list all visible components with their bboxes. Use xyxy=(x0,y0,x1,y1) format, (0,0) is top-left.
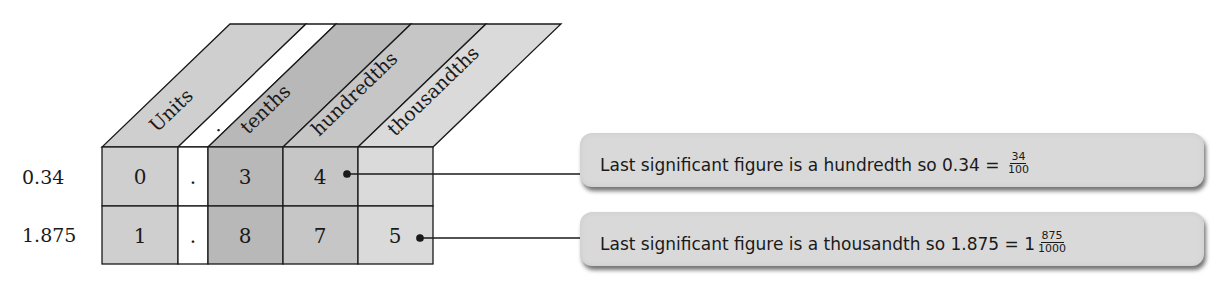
digit-r2-thousandths: 5 xyxy=(389,224,402,248)
callout-thousandth-whole: 1 xyxy=(1024,233,1035,253)
digit-r1-hundredths: 4 xyxy=(314,165,327,189)
value-grid xyxy=(102,147,433,264)
leader-dot-thousandth xyxy=(417,235,423,241)
cell-r1-thousandths xyxy=(358,147,433,206)
callout-hundredth-sentence: Last significant figure is a hundredth s… xyxy=(600,154,1005,174)
fraction-numerator: 34 xyxy=(1010,151,1026,164)
callout-hundredth: Last significant figure is a hundredth s… xyxy=(580,133,1204,187)
digit-r2-point: . xyxy=(190,224,196,248)
callout-hundredth-text: Last significant figure is a hundredth s… xyxy=(600,143,1030,178)
fraction-875-1000: 8751000 xyxy=(1037,230,1067,255)
digit-r1-units: 0 xyxy=(134,165,147,189)
digit-r2-units: 1 xyxy=(134,224,147,248)
digit-r1-point: . xyxy=(190,165,196,189)
leader-dot-hundredth xyxy=(344,171,350,177)
digit-r2-hundredths: 7 xyxy=(314,224,327,248)
fraction-denominator: 100 xyxy=(1007,164,1030,176)
callout-thousandth: Last significant figure is a thousandth … xyxy=(580,212,1204,266)
fraction-34-100: 34100 xyxy=(1007,151,1030,176)
callout-thousandth-sentence: Last significant figure is a thousandth … xyxy=(600,233,1024,253)
fraction-numerator: 875 xyxy=(1041,230,1064,243)
digit-r1-tenths: 3 xyxy=(239,165,252,189)
fraction-denominator: 1000 xyxy=(1037,243,1067,255)
digit-r2-tenths: 8 xyxy=(239,224,252,248)
row-label-1-875: 1.875 xyxy=(22,224,76,246)
callout-thousandth-text: Last significant figure is a thousandth … xyxy=(600,222,1067,257)
row-label-0-34: 0.34 xyxy=(22,166,64,188)
